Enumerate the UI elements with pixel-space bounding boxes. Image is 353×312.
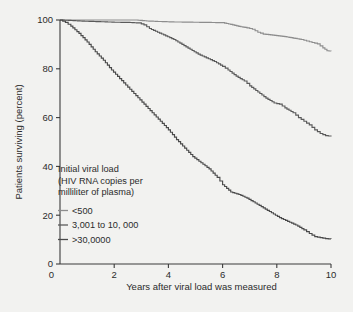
legend-label-1: 3,001 to 10, 000: [72, 220, 138, 230]
legend-title-line-1: (HIV RNA copies per: [58, 176, 143, 186]
y-axis-title: Patients surviving (percent): [13, 84, 24, 199]
legend-label-2: >30,0000: [72, 235, 111, 245]
legend-title-line-0: Initial viral load: [58, 164, 119, 174]
y-tick-label-80: 80: [42, 63, 53, 74]
y-tick-label-20: 20: [42, 210, 53, 221]
y-tick-label-0: 0: [48, 258, 53, 269]
chart-legend: Initial viral load(HIV RNA copies permil…: [58, 164, 143, 245]
x-tick-label-0: 0: [49, 269, 54, 280]
survival-chart: 0204060801000246810 Initial viral load(H…: [0, 0, 353, 312]
x-tick-label-2: 2: [112, 269, 117, 280]
x-tick-label-10: 10: [326, 269, 337, 280]
x-tick-label-4: 4: [166, 269, 171, 280]
x-tick-label-6: 6: [220, 269, 225, 280]
chart-figure: 0204060801000246810 Initial viral load(H…: [0, 0, 353, 312]
x-axis-title: Years after viral load was measured: [126, 281, 277, 292]
y-tick-label-60: 60: [42, 112, 53, 123]
x-tick-label-8: 8: [274, 269, 279, 280]
curve-series-2: [60, 20, 331, 239]
legend-label-0: <500: [72, 206, 93, 216]
curves-group: [60, 20, 331, 239]
legend-title-line-2: milliliter of plasma): [58, 187, 134, 197]
y-tick-label-40: 40: [42, 161, 53, 172]
curve-series-0: [60, 20, 331, 51]
y-tick-label-100: 100: [37, 14, 53, 25]
